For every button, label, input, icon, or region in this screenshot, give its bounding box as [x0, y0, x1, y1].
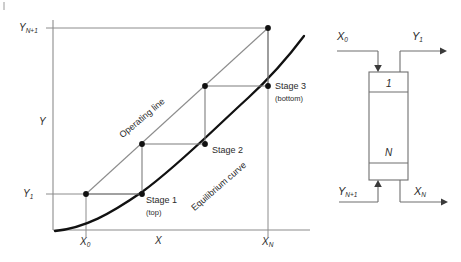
arrowhead-x0-in: [374, 65, 382, 72]
stage-diagram-plot: [0, 0, 461, 262]
figure-root: YN+1 Y1 Y X0 XN X Operating line Equilib…: [0, 0, 461, 262]
column-bottom-stage-number: N: [385, 148, 392, 158]
marker-point: [139, 191, 145, 197]
stage-1-sublabel: (top): [146, 209, 161, 217]
y-tick-label-top: YN+1: [19, 23, 38, 33]
marker-point: [265, 83, 271, 89]
stream-label-y1: Y1: [412, 31, 423, 42]
stream-label-x0: X0: [337, 31, 348, 42]
x-tick-label-right: XN: [262, 237, 273, 247]
marker-point: [139, 141, 145, 147]
stage-1-label: Stage 1: [146, 196, 177, 205]
marker-point: [202, 141, 208, 147]
stage-3-sublabel: (bottom): [275, 95, 303, 103]
column-schematic-vector: [337, 51, 444, 202]
x-tick-label-left: X0: [80, 237, 90, 247]
x-axis-label: X: [155, 236, 162, 246]
arrowhead-xn-out: [441, 199, 448, 206]
equilibrium-curve: [55, 36, 304, 231]
marker-point: [265, 25, 271, 31]
stream-label-yn1: YN+1: [338, 186, 357, 197]
y-tick-label-bottom: Y1: [23, 189, 33, 199]
y-axis-label: Y: [39, 117, 46, 127]
arrowhead-yn1-in: [374, 180, 382, 187]
stage-3-label: Stage 3: [275, 82, 306, 91]
stream-label-xn: XN: [414, 186, 426, 197]
stage-2-label: Stage 2: [212, 146, 243, 155]
arrowhead-y1-out: [440, 48, 447, 55]
marker-point: [83, 191, 89, 197]
column-top-stage-number: 1: [386, 79, 392, 89]
marker-point: [202, 83, 208, 89]
column-arrowheads: [374, 48, 448, 206]
